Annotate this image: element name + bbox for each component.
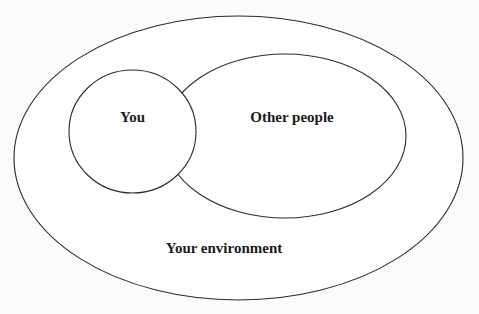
venn-diagram: You Other people Your environment [0,0,479,314]
you-circle [69,70,196,193]
you-label: You [120,109,145,125]
other-people-ellipse [164,54,406,218]
environment-label: Your environment [166,240,283,256]
other-people-label: Other people [250,109,334,125]
